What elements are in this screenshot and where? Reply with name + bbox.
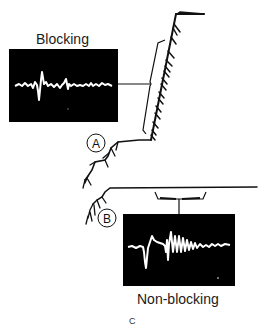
site-a-label: A — [92, 137, 100, 151]
non-blocking-bracket — [155, 192, 206, 214]
blocking-scope — [9, 49, 118, 122]
neuron-diagram: A B — [0, 0, 263, 330]
site-a-marker: A — [87, 134, 105, 152]
site-b-marker: B — [98, 209, 116, 227]
site-b-label: B — [103, 212, 111, 226]
non-blocking-scope — [123, 214, 235, 286]
